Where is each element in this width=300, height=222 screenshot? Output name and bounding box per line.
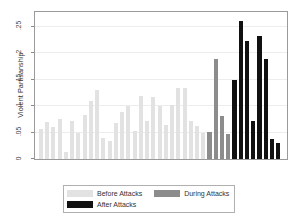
bar (276, 143, 280, 159)
bar (189, 121, 193, 159)
y-tick-label: .05 (14, 124, 23, 140)
legend-swatch-during-attacks (154, 190, 180, 197)
bar (83, 115, 87, 159)
chart-figure: Violent Partisanship 0.05.1.15.2.25 Befo… (0, 0, 300, 222)
bar (239, 21, 243, 159)
bar (64, 152, 68, 159)
legend-swatch-before-attacks (67, 190, 93, 197)
bar (220, 116, 224, 159)
bar (126, 106, 130, 159)
bar (257, 36, 261, 159)
y-tick-label: .15 (14, 71, 23, 87)
legend-entry-after-attacks: After Attacks (67, 200, 136, 209)
bar (76, 133, 80, 159)
bar (164, 125, 168, 159)
bar (232, 80, 236, 159)
y-tick-label: 0 (14, 150, 23, 166)
legend-entry-during-attacks: During Attacks (154, 189, 229, 198)
y-tick-label: .1 (14, 97, 23, 113)
bar (214, 59, 218, 159)
bar (145, 121, 149, 159)
bar (195, 126, 199, 159)
legend-row-1: Before Attacks During Attacks (67, 188, 231, 199)
bar (95, 90, 99, 159)
legend-label-after-attacks: After Attacks (97, 200, 136, 209)
bar (183, 88, 187, 159)
legend-label-before-attacks: Before Attacks (97, 189, 142, 198)
legend-label-during-attacks: During Attacks (184, 189, 229, 198)
bar (58, 119, 62, 159)
bar (170, 105, 174, 159)
bar (114, 123, 118, 159)
bar (201, 133, 205, 159)
bar (39, 129, 43, 159)
y-tick-label: .2 (14, 44, 23, 60)
bar (133, 131, 137, 159)
legend-row-2: After Attacks (67, 199, 231, 210)
legend-entry-before-attacks: Before Attacks (67, 189, 142, 198)
bar (176, 88, 180, 160)
bar (270, 139, 274, 159)
bar (139, 96, 143, 159)
bar (207, 132, 211, 159)
bar (45, 122, 49, 159)
bar (70, 121, 74, 159)
bar (89, 101, 93, 159)
plot-area (34, 11, 288, 160)
bar (251, 121, 255, 159)
bar (264, 59, 268, 159)
bar (120, 112, 124, 159)
bar (245, 41, 249, 159)
y-tick-label: .25 (14, 18, 23, 34)
chart-legend: Before Attacks During Attacks After Atta… (63, 185, 235, 213)
bar (101, 138, 105, 159)
legend-swatch-after-attacks (67, 201, 93, 208)
bar (226, 134, 230, 159)
bar (151, 97, 155, 159)
bar (51, 127, 55, 159)
bar (158, 106, 162, 159)
bar (108, 141, 112, 159)
bar-series-container (35, 12, 287, 159)
